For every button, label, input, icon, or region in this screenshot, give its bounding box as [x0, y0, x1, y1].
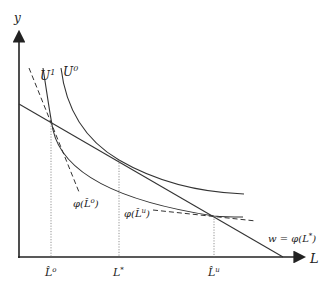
- x-tick-label-lstar: L*: [112, 266, 124, 279]
- indifference-curve-u0: [61, 68, 244, 194]
- y-axis-label: y: [13, 11, 21, 25]
- tangent-line-left: [29, 68, 79, 192]
- u0-label: U0: [63, 64, 78, 79]
- indifference-curve-u1: [43, 68, 243, 217]
- wage-line: [19, 104, 283, 257]
- x-tick-label-lu: L̂u: [207, 266, 220, 279]
- tangent-label-left: φ(L̂o): [73, 197, 99, 209]
- economic-diagram: y L U1 U0 φ(L̂o) φ(L̂u) w = φ(L*) L̂o L*…: [0, 0, 332, 289]
- x-axis-label: L: [309, 251, 319, 266]
- wage-line-label: w = φ(L*): [268, 232, 316, 244]
- x-tick-label-lo: L̂o: [44, 266, 57, 279]
- u1-label: U1: [40, 68, 55, 83]
- tangent-label-right: φ(L̂u): [124, 207, 150, 219]
